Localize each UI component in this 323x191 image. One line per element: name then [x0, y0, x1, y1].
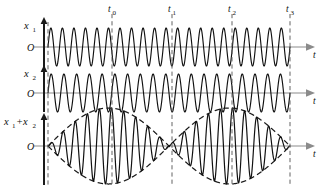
beats-figure: x 1 O t x 2 O t x 1 +x 2 O t t0t1t2t3 [0, 0, 323, 191]
value-axis-arrow-x2 [41, 65, 48, 72]
ylabel-sum-subscript2: 2 [33, 122, 37, 130]
time-marker-subscript-m_t2: 2 [233, 9, 237, 17]
xlabel-sum: t [313, 149, 316, 159]
ylabel-x1-base: x [23, 20, 29, 31]
time-marker-subscript-m_t3: 3 [291, 9, 295, 17]
time-marker-subscript-m_t0: 0 [113, 9, 117, 17]
plot-row-x1 [34, 17, 315, 68]
ylabel-x2-subscript: 2 [33, 74, 37, 82]
waveform-sum [48, 108, 290, 184]
time-marker-group [48, 14, 290, 185]
time-marker-label-group: t0t1t2t3 [108, 4, 295, 17]
plot-row-sum [34, 108, 315, 185]
time-marker-label-m_t1: t [168, 4, 171, 14]
figure-canvas: x 1 O t x 2 O t x 1 +x 2 O t t0t1t2t3 [0, 0, 323, 191]
xlabel-x1: t [313, 50, 316, 60]
plot-row-x2 [34, 65, 315, 112]
ylabel-sum-base2: +x [16, 116, 28, 127]
origin-label-sum: O [27, 141, 34, 152]
value-axis-arrow-x1 [41, 17, 48, 24]
value-axis-arrow-sum [41, 113, 48, 120]
xlabel-x2: t [313, 96, 316, 106]
ylabel-x1-subscript: 1 [33, 26, 37, 34]
ylabel-sum-base1: x [3, 116, 9, 127]
time-marker-label-m_t0: t [108, 4, 111, 14]
origin-label-x1: O [27, 42, 34, 53]
label-group: x 1 O t x 2 O t x 1 +x 2 O t [3, 20, 316, 159]
origin-label-x2: O [27, 88, 34, 99]
ylabel-x2-base: x [23, 68, 29, 79]
time-marker-label-m_t3: t [286, 4, 289, 14]
time-marker-subscript-m_t1: 1 [173, 9, 177, 17]
time-marker-label-m_t2: t [228, 4, 231, 14]
